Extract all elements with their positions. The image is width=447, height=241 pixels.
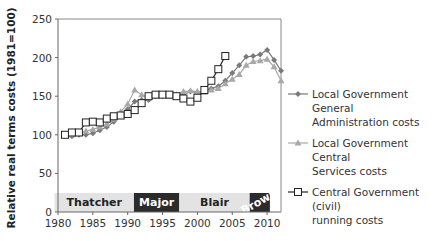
- diamond-marker-icon: [287, 87, 309, 101]
- x-tick-label: 1990: [114, 217, 141, 229]
- data-point: [264, 56, 271, 62]
- data-point: [278, 68, 284, 74]
- data-point: [103, 115, 110, 122]
- data-point: [187, 98, 194, 105]
- legend-label: Local Government Central: [312, 136, 447, 164]
- legend-label: running costs: [312, 213, 447, 227]
- legend: Local Government General Administration …: [287, 87, 447, 234]
- band-label: Thatcher: [67, 196, 123, 209]
- y-tick-label: 100: [32, 129, 52, 141]
- data-point: [124, 100, 131, 106]
- data-point: [68, 129, 75, 136]
- data-point: [110, 113, 117, 120]
- data-point: [75, 129, 82, 136]
- band-label: Blair: [200, 196, 229, 209]
- data-point: [89, 118, 96, 125]
- legend-item-lg-central-services: Local Government Central Services costs: [287, 136, 447, 178]
- data-point: [173, 93, 180, 100]
- data-point: [222, 53, 229, 60]
- data-point: [180, 95, 187, 102]
- y-tick-label: 50: [39, 167, 52, 179]
- data-point: [117, 112, 124, 119]
- data-point: [96, 119, 103, 126]
- data-point: [159, 91, 166, 98]
- series-square: [61, 53, 228, 139]
- legend-item-lg-general-admin: Local Government General Administration …: [287, 87, 447, 129]
- data-point: [208, 77, 215, 84]
- data-point: [201, 87, 208, 94]
- data-point: [124, 110, 131, 117]
- legend-label: Administration costs: [312, 115, 447, 129]
- x-tick-label: 2010: [254, 217, 281, 229]
- band-label: Brown: [239, 186, 280, 217]
- x-tick-label: 2000: [184, 217, 211, 229]
- data-point: [187, 87, 194, 93]
- data-point: [82, 119, 89, 126]
- band-thatcher: Thatcher: [55, 193, 134, 212]
- legend-label: Services costs: [312, 164, 447, 178]
- data-point: [194, 94, 201, 101]
- legend-label: Local Government General: [312, 87, 447, 115]
- data-point: [145, 93, 152, 100]
- x-tick-label: 2005: [219, 217, 246, 229]
- data-point: [166, 91, 173, 98]
- legend-label: Central Government (civil): [312, 185, 447, 213]
- legend-item-central-government: Central Government (civil) running costs: [287, 185, 447, 227]
- x-tick-label: 1985: [79, 217, 106, 229]
- y-tick-label: 250: [32, 13, 52, 25]
- band-brown: Brown: [239, 186, 280, 217]
- y-axis-label: Relative real terms costs (1981=100): [5, 7, 17, 228]
- band-major: Major: [134, 193, 179, 212]
- band-label: Major: [139, 196, 175, 209]
- y-tick-label: 200: [32, 52, 52, 64]
- triangle-marker-icon: [287, 136, 309, 150]
- band-blair: Blair: [179, 193, 249, 212]
- data-point: [61, 131, 68, 138]
- data-point: [131, 107, 138, 114]
- x-tick-label: 1980: [45, 217, 72, 229]
- data-point: [138, 91, 145, 97]
- data-point: [278, 77, 285, 83]
- data-series: [61, 47, 284, 139]
- square-marker-icon: [287, 185, 309, 199]
- data-point: [243, 62, 250, 68]
- y-tick-label: 150: [32, 90, 52, 102]
- x-tick-label: 1995: [149, 217, 176, 229]
- data-point: [152, 91, 159, 98]
- data-point: [131, 87, 138, 93]
- data-point: [215, 66, 222, 73]
- data-point: [138, 100, 145, 107]
- government-period-bands: ThatcherMajorBlairBrown: [55, 186, 280, 217]
